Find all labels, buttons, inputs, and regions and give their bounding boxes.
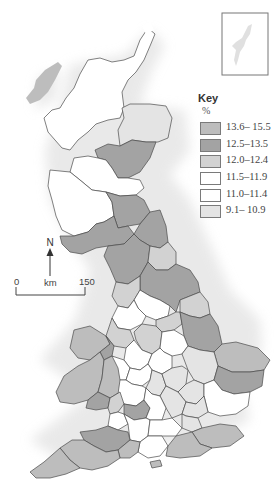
scale-start: 0 (14, 276, 19, 287)
key-row-12-0-12-4: 12.0–12.4 (200, 155, 276, 168)
key-label: 12.0–12.4 (226, 154, 268, 165)
scale-bar-line (14, 287, 88, 297)
scale-end: 150 (79, 276, 95, 287)
choropleth-map (0, 0, 276, 481)
key-row-11-5-11-9: 11.5–11.9 (200, 172, 276, 185)
key-row-11-0-11-4: 11.0–11.4 (200, 189, 276, 202)
north-label: N (44, 237, 56, 248)
north-arrow: N (44, 237, 56, 280)
key-row-12-5-13-5: 12.5–13.5 (200, 139, 276, 152)
north-arrow-icon (44, 248, 56, 276)
key-label: 11.5–11.9 (226, 171, 267, 182)
key-title: Key (198, 92, 276, 104)
key-label: 9.1– 10.9 (226, 204, 265, 215)
key-label: 13.6– 15.5 (226, 121, 271, 132)
key-label: 12.5–13.5 (226, 138, 268, 149)
key-row-13-6-15-5: 13.6– 15.5 (200, 122, 276, 135)
region-isle-of-wight (150, 460, 162, 468)
key-swatch (200, 122, 221, 135)
key-label: 11.0–11.4 (226, 188, 267, 199)
key-swatch (200, 205, 221, 218)
region-grampian (118, 104, 172, 146)
key-swatch (200, 155, 221, 168)
shetland-inset (222, 13, 268, 75)
map-key: Key % 13.6– 15.5 12.5–13.5 12.0–12.4 11.… (198, 92, 276, 232)
key-swatch (200, 172, 221, 185)
key-swatch (200, 139, 221, 152)
key-unit: % (202, 104, 276, 118)
key-row-9-1-10-9: 9.1– 10.9 (200, 205, 276, 218)
key-swatch (200, 189, 221, 202)
